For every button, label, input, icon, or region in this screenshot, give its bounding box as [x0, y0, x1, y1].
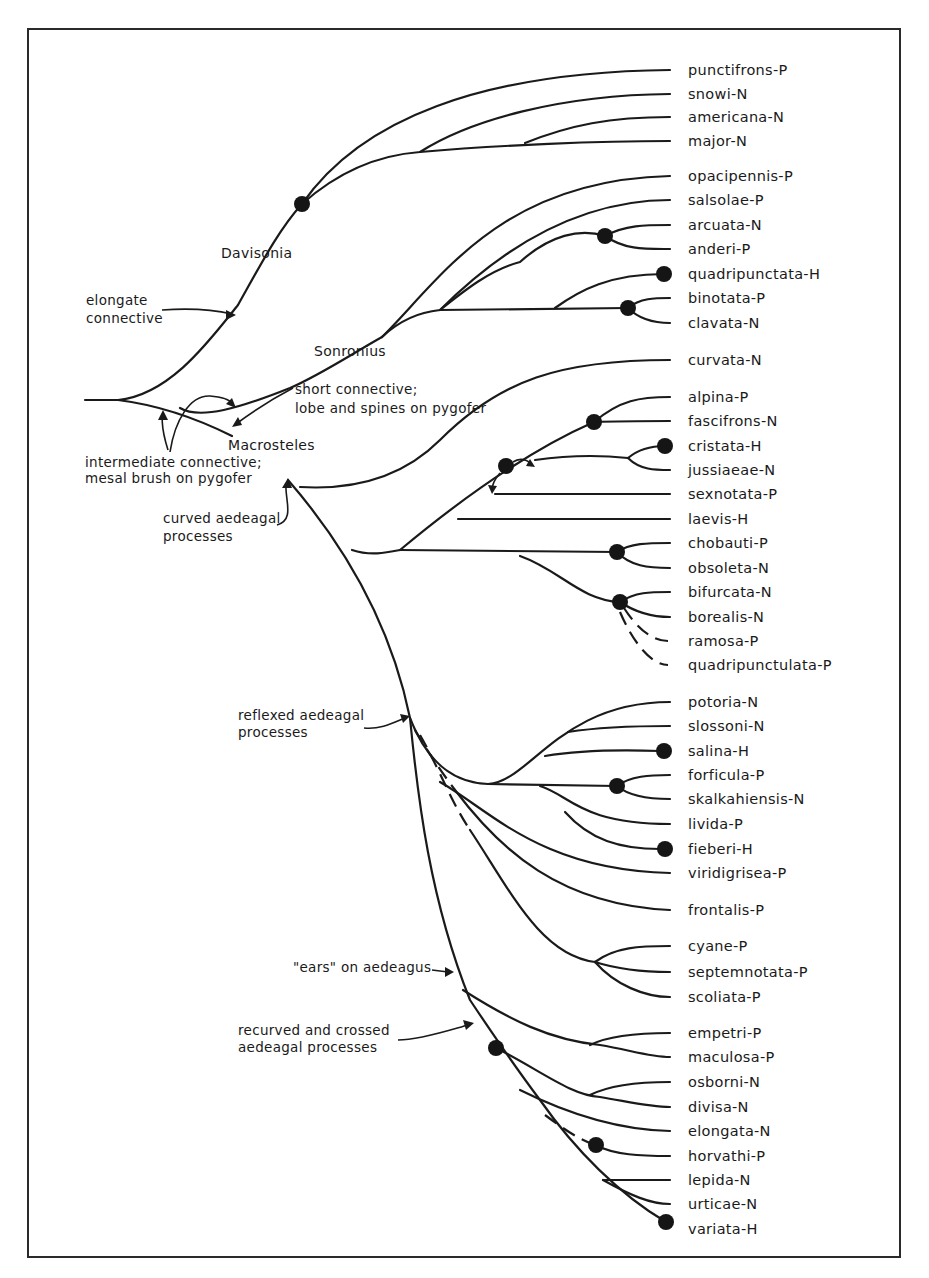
taxon-label-livida: livida-P: [688, 816, 743, 832]
taxon-label-borealis: borealis-N: [688, 609, 764, 625]
taxon-label-skalkahiensis: skalkahiensis-N: [688, 791, 805, 807]
tree-branches: [85, 70, 670, 1222]
taxon-label-quadripunctata: quadripunctata-H: [688, 266, 820, 282]
node-marker: [657, 438, 673, 454]
taxon-label-divisa: divisa-N: [688, 1099, 749, 1115]
taxon-label-horvathi: horvathi-P: [688, 1148, 765, 1164]
node-marker: [656, 266, 672, 282]
taxon-label-cyane: cyane-P: [688, 938, 748, 954]
node-marker: [498, 458, 514, 474]
taxon-label-salina: salina-H: [688, 743, 749, 759]
node-marker: [656, 743, 672, 759]
node-marker: [294, 196, 310, 212]
taxon-label-forficula: forficula-P: [688, 767, 764, 783]
taxon-label-alpina: alpina-P: [688, 389, 749, 405]
taxon-label-fieberi: fieberi-H: [688, 841, 753, 857]
taxon-labels: punctifrons-Psnowi-Namericana-Nmajor-Nop…: [687, 62, 832, 1237]
character-annotations: elongate connective short connective; lo…: [85, 292, 486, 1055]
annotation-short-connective: short connective; lobe and spines on pyg…: [295, 381, 486, 416]
genus-label-davisonia: Davisonia: [221, 245, 292, 261]
taxon-label-viridigrisea: viridigrisea-P: [688, 865, 787, 881]
taxon-label-binotata: binotata-P: [688, 290, 765, 306]
taxon-label-major: major-N: [688, 133, 747, 149]
node-marker: [658, 1214, 674, 1230]
taxon-label-arcuata: arcuata-N: [688, 217, 762, 233]
taxon-label-americana: americana-N: [688, 109, 784, 125]
genus-labels: Davisonia Sonronius Macrosteles: [221, 245, 386, 453]
taxon-label-sexnotata: sexnotata-P: [688, 486, 777, 502]
macrosteles-trunk: [288, 480, 666, 1222]
node-marker: [612, 594, 628, 610]
taxon-label-laevis: laevis-H: [688, 511, 749, 527]
taxon-label-bifurcata: bifurcata-N: [688, 584, 772, 600]
taxon-label-slossoni: slossoni-N: [688, 718, 765, 734]
diagram-frame: [28, 29, 900, 1257]
annotation-recurved-crossed: recurved and crossed aedeagal processes: [238, 1022, 394, 1055]
annotation-curved-aedeagal: curved aedeagal processes: [163, 510, 285, 544]
node-marker: [597, 228, 613, 244]
taxon-label-elongata: elongata-N: [688, 1123, 771, 1139]
taxon-label-ramosa: ramosa-P: [688, 633, 759, 649]
taxon-label-potoria: potoria-N: [688, 694, 758, 710]
taxon-label-jussiaeae: jussiaeae-N: [687, 462, 775, 478]
taxon-label-variata: variata-H: [688, 1221, 758, 1237]
taxon-label-opacipennis: opacipennis-P: [688, 168, 793, 184]
taxon-label-urticae: urticae-N: [688, 1196, 757, 1212]
taxon-label-scoliata: scoliata-P: [688, 989, 761, 1005]
taxon-label-chobauti: chobauti-P: [688, 535, 768, 551]
taxon-label-cristata: cristata-H: [688, 438, 762, 454]
node-marker: [657, 841, 673, 857]
annotation-ears-on-aedeagus: "ears" on aedeagus: [293, 959, 431, 975]
annotation-elongate-connective: elongate connective: [86, 292, 163, 326]
taxon-label-septemnotata: septemnotata-P: [688, 964, 808, 980]
node-marker: [588, 1137, 604, 1153]
annotation-reflexed-aedeagal: reflexed aedeagal processes: [238, 707, 369, 740]
taxon-label-fascifrons: fascifrons-N: [688, 413, 778, 429]
taxon-label-snowi: snowi-N: [688, 86, 748, 102]
node-marker: [609, 778, 625, 794]
taxon-label-obsoleta: obsoleta-N: [688, 560, 769, 576]
taxon-label-anderi: anderi-P: [688, 241, 751, 257]
annotation-arrows: [158, 309, 535, 1040]
taxon-label-punctifrons: punctifrons-P: [688, 62, 788, 78]
taxon-label-frontalis: frontalis-P: [688, 902, 764, 918]
phylogenetic-tree-diagram: Davisonia Sonronius Macrosteles elongate…: [0, 0, 929, 1278]
taxon-label-lepida: lepida-N: [688, 1172, 751, 1188]
annotation-intermediate-connective: intermediate connective; mesal brush on …: [85, 454, 266, 486]
node-marker: [609, 544, 625, 560]
taxon-label-salsolae: salsolae-P: [688, 192, 764, 208]
taxon-label-empetri: empetri-P: [688, 1025, 762, 1041]
genus-label-sonronius: Sonronius: [314, 343, 386, 359]
genus-label-macrosteles: Macrosteles: [228, 437, 315, 453]
node-marker: [488, 1040, 504, 1056]
taxon-label-clavata: clavata-N: [688, 315, 760, 331]
node-marker: [620, 300, 636, 316]
node-marker: [586, 414, 602, 430]
taxon-label-maculosa: maculosa-P: [688, 1049, 775, 1065]
taxon-label-curvata: curvata-N: [688, 352, 762, 368]
taxon-label-osborni: osborni-N: [688, 1074, 760, 1090]
taxon-label-quadripunctulata: quadripunctulata-P: [688, 657, 832, 673]
